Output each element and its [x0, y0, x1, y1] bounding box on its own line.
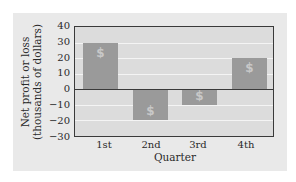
dollar-sign-icon: $ [133, 104, 168, 118]
bar-4th: $ [232, 58, 267, 89]
bar-2nd: $ [133, 89, 168, 120]
y-axis-label-line-1: Net profit or loss [19, 22, 31, 142]
y-tick: 40 [40, 21, 70, 31]
zero-axis-line [75, 89, 273, 90]
y-tick: 10 [40, 68, 70, 78]
dollar-sign-icon: $ [232, 61, 267, 75]
plot-area: $$$$ [74, 26, 274, 137]
x-tick-4th: 4th [226, 139, 266, 150]
x-tick-2nd: 2nd [131, 139, 171, 150]
y-tick: −10 [40, 100, 70, 110]
gridline [75, 120, 273, 121]
dollar-sign-icon: $ [182, 89, 217, 103]
x-tick-1st: 1st [84, 139, 124, 150]
y-tick: 30 [40, 37, 70, 47]
y-tick: 20 [40, 53, 70, 63]
x-tick-3rd: 3rd [178, 139, 218, 150]
gridline [75, 105, 273, 106]
x-axis-label: Quarter [150, 151, 200, 163]
dollar-sign-icon: $ [83, 46, 118, 60]
y-tick: −30 [40, 132, 70, 142]
y-tick: −20 [40, 116, 70, 126]
bar-1st: $ [83, 43, 118, 90]
bar-3rd: $ [182, 89, 217, 105]
y-tick: 0 [40, 84, 70, 94]
